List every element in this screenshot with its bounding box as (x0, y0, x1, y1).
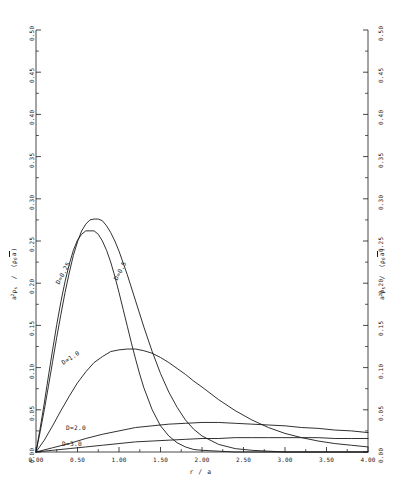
y-tick-label-right: 0.10 (377, 363, 384, 378)
axis-ticks (36, 30, 368, 452)
x-tick-label: 3.00 (277, 456, 292, 463)
x-tick-label: 1.50 (153, 456, 168, 463)
y-tick-label: 0.15 (28, 321, 35, 336)
x-tick-label: 3.50 (319, 456, 334, 463)
axis-frame (36, 30, 368, 452)
y-tick-label-right: 0.40 (377, 110, 384, 125)
curve-d-0-25 (36, 231, 368, 452)
y-tick-label: 0.40 (28, 110, 35, 125)
curve-d-0-5 (36, 219, 368, 452)
y-tick-label: 0.05 (28, 406, 35, 421)
y-tick-label: 0.25 (28, 237, 35, 252)
y-tick-label-right: 0.35 (377, 152, 384, 167)
x-tick-label: 2.00 (194, 456, 209, 463)
y-axis-title-left: a2ρs / (ρ0a) (10, 248, 18, 300)
x-axis-title: r / a (0, 468, 401, 476)
curve-label-d-2-0: D=2.0 (66, 424, 86, 431)
y-tick-label: 0.45 (28, 68, 35, 83)
y-tick-label: 0.20 (28, 279, 35, 294)
y-tick-label: 0.10 (28, 363, 35, 378)
y-tick-label-right: 0.45 (377, 68, 384, 83)
y-tick-label-right: 0.00 (377, 448, 384, 463)
curve-label-d-3-0: D=3.0 (62, 440, 82, 447)
y-tick-label-right: 0.50 (377, 26, 384, 41)
y-tick-label-right: 0.20 (377, 279, 384, 294)
y-tick-label: 0.50 (28, 26, 35, 41)
y-tick-label-right: 0.25 (377, 237, 384, 252)
x-tick-label: 0.50 (70, 456, 85, 463)
data-curves (36, 219, 368, 452)
y-tick-label-right: 0.05 (377, 406, 384, 421)
curve-d-1-0 (36, 349, 368, 452)
plot-canvas (0, 0, 401, 487)
x-tick-label: 2.50 (236, 456, 251, 463)
x-tick-label: 1.00 (111, 456, 126, 463)
x-tick-label: 0.00 (28, 456, 43, 463)
y-tick-label-right: 0.30 (377, 195, 384, 210)
x-tick-label: 4.00 (360, 456, 375, 463)
chart-figure: a2ρs / (ρ0a) a2ρs / (ρ0a) r / a 0.000.05… (0, 0, 401, 487)
y-tick-label: 0.30 (28, 195, 35, 210)
y-tick-label: 0.35 (28, 152, 35, 167)
y-tick-label-right: 0.15 (377, 321, 384, 336)
